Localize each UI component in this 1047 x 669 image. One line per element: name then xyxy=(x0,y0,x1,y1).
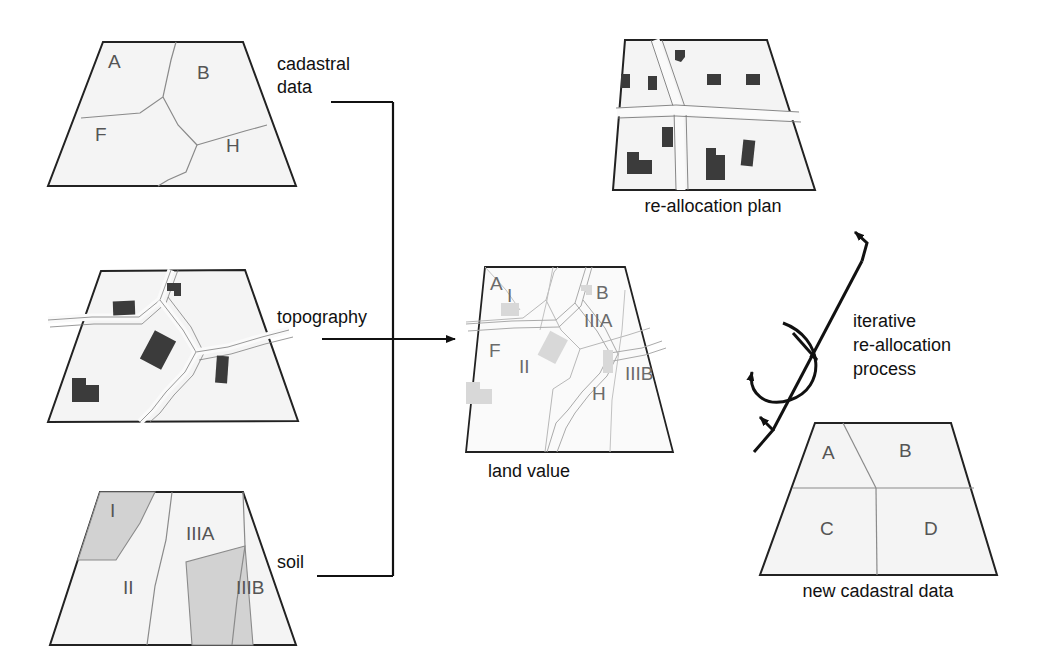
soil-outline xyxy=(50,492,296,645)
reallocation-caption: re-allocation plan xyxy=(644,196,781,216)
building xyxy=(707,74,721,85)
soil-parcel-label-I: I xyxy=(110,500,115,521)
new-cadastral-label-C: C xyxy=(820,518,834,539)
building xyxy=(621,74,630,88)
diagram-canvas: A B F H xyxy=(0,0,1047,669)
cadastral-parcel-label-A: A xyxy=(108,51,121,72)
process-label-line2: re-allocation xyxy=(853,335,951,355)
connector-bus: cadastral data topography soil xyxy=(277,54,455,576)
land-value-label-I: I xyxy=(507,285,512,306)
building xyxy=(113,301,135,316)
process-diagonal-shaft xyxy=(773,261,862,430)
new-cadastral-label-B: B xyxy=(899,440,912,461)
panel-land-value[interactable]: A I B IIIA F II H IIIB land value xyxy=(466,267,673,481)
process-label-line3: process xyxy=(853,359,916,379)
connector-label-topography: topography xyxy=(277,307,367,327)
new-cadastral-outline xyxy=(760,423,997,575)
land-reallocation-diagram: A B F H xyxy=(0,0,1047,669)
process-loop-arrow xyxy=(751,323,815,402)
building xyxy=(746,74,760,85)
land-value-label-IIIB: IIIB xyxy=(625,363,654,384)
building xyxy=(215,356,229,384)
connector-label-cadastral-line1: cadastral xyxy=(277,54,350,74)
process-arrow-upward xyxy=(754,417,773,452)
soil-parcel-label-II: II xyxy=(123,577,134,598)
soil-parcel-label-IIIA: IIIA xyxy=(186,523,215,544)
cadastral-parcel-label-F: F xyxy=(95,124,107,145)
land-value-label-H: H xyxy=(592,383,606,404)
soil-parcel-label-IIIB: IIIB xyxy=(236,577,265,598)
panel-soil[interactable]: I II IIIA IIIB xyxy=(50,492,296,645)
land-value-label-II: II xyxy=(519,356,530,377)
panel-cadastral-data[interactable]: A B F H xyxy=(48,42,296,186)
connector-label-soil: soil xyxy=(277,552,304,572)
cadastral-parcel-label-H: H xyxy=(226,135,240,156)
land-value-caption: land value xyxy=(488,461,570,481)
panel-topography[interactable] xyxy=(48,270,298,422)
process-label-line1: iterative xyxy=(853,311,916,331)
building xyxy=(662,127,673,147)
building xyxy=(648,76,657,90)
new-cadastral-caption: new cadastral data xyxy=(802,581,954,601)
land-value-label-A: A xyxy=(490,273,503,294)
new-cadastral-label-A: A xyxy=(822,442,835,463)
panel-reallocation-plan[interactable]: re-allocation plan xyxy=(613,40,815,216)
new-cadastral-label-D: D xyxy=(924,518,938,539)
connector-label-cadastral-line2: data xyxy=(277,77,313,97)
land-value-label-B: B xyxy=(596,282,609,303)
building-faint xyxy=(603,350,613,373)
land-value-label-F: F xyxy=(489,340,501,361)
land-value-label-IIIA: IIIA xyxy=(584,310,613,331)
cadastral-parcel-label-B: B xyxy=(197,62,210,83)
iterative-process-arrows[interactable]: iterative re-allocation process xyxy=(751,232,951,452)
process-arrow-downward xyxy=(855,232,867,261)
panel-new-cadastral-data[interactable]: A B C D new cadastral data xyxy=(760,423,997,601)
